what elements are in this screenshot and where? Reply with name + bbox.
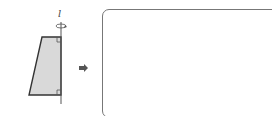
rotation-diagram: l xyxy=(0,0,272,116)
trapezoid-shape xyxy=(29,37,61,95)
right-arrow-icon xyxy=(79,64,88,72)
axis-label: l xyxy=(58,8,61,19)
answer-box xyxy=(102,9,272,116)
